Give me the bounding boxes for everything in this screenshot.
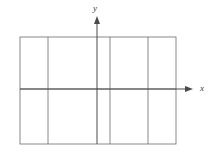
figure-root: y x [0,0,215,160]
x-axis-arrowhead-icon [185,86,193,92]
y-axis-label: y [93,4,97,13]
outer-rectangle [20,37,176,144]
coordinate-axes-diagram [0,0,215,160]
y-axis-arrowhead-icon [94,16,100,24]
x-axis-label: x [200,84,204,93]
